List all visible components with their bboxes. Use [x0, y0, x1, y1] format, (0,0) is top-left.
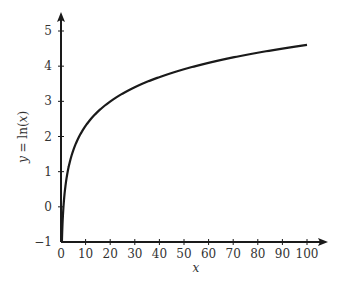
x-tick-label: 80 [250, 247, 265, 261]
x-tick-label: 50 [176, 247, 191, 261]
x-tick-label: 30 [127, 247, 142, 261]
y-tick-label: 3 [44, 94, 52, 108]
y-tick-label: 2 [44, 130, 52, 144]
y-tick-labels: −1012345 [34, 24, 52, 249]
x-tick-label: 40 [152, 247, 167, 261]
x-tick-label: 20 [103, 247, 118, 261]
x-tick-label: 0 [57, 247, 65, 261]
y-axis-label: y = ln(x) [16, 111, 30, 164]
x-tick-label: 100 [296, 247, 319, 261]
x-axis-label: x [193, 261, 200, 275]
x-tick-labels: 0102030405060708090100 [57, 247, 318, 261]
ln-curve [62, 45, 307, 242]
y-tick-label: 1 [44, 165, 52, 179]
y-tick-label: 4 [44, 59, 52, 73]
x-tick-label: 90 [275, 247, 290, 261]
y-tick-label: 0 [44, 200, 52, 214]
x-tick-label: 70 [226, 247, 241, 261]
ln-chart: 0102030405060708090100 −1012345 x y = ln… [0, 0, 342, 286]
y-tick-label: 5 [44, 24, 52, 38]
x-tick-label: 10 [78, 247, 93, 261]
x-tick-label: 60 [201, 247, 216, 261]
y-tick-label: −1 [34, 235, 52, 249]
